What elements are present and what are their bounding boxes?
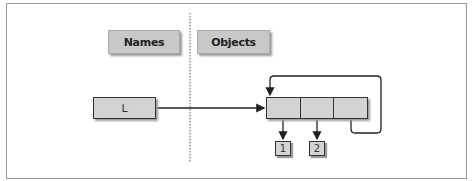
list-cell-1 <box>266 97 301 119</box>
variable-l-box: L <box>93 97 156 119</box>
names-header: Names <box>108 30 180 54</box>
item-2-box: 2 <box>309 141 325 156</box>
connector-layer <box>0 0 473 181</box>
item-1-box: 1 <box>275 141 291 156</box>
list-cell-2 <box>300 97 335 119</box>
list-cell-3 <box>333 97 368 119</box>
list-object <box>266 97 368 119</box>
objects-header: Objects <box>197 30 270 54</box>
